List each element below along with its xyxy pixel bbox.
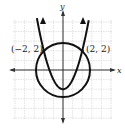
intersection-point-right (81, 49, 84, 52)
parabola-right-arrow-icon (80, 17, 86, 24)
x-axis-left-arrow-icon (9, 68, 15, 72)
x-axis-right-arrow-icon (110, 68, 116, 72)
y-axis-label: y (59, 2, 65, 11)
graph: x y (−2, 2) (2, 2) (0, 0, 125, 129)
y-axis: y (59, 2, 65, 124)
point-label-left: (−2, 2) (11, 44, 43, 54)
x-axis: x (9, 66, 122, 75)
point-label-right: (2, 2) (86, 44, 110, 54)
x-axis-label: x (117, 66, 122, 75)
parabola-left-arrow-icon (40, 17, 46, 24)
y-axis-down-arrow-icon (61, 118, 65, 124)
